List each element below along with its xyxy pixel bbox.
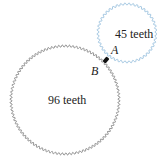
small-gear-label: 45 teeth [115, 27, 153, 41]
gear-diagram: 45 teeth A B 96 teeth [0, 0, 157, 163]
point-b-label: B [91, 64, 99, 78]
contact-point-marker [103, 56, 110, 63]
large-gear-label: 96 teeth [48, 93, 86, 107]
point-a-label: A [110, 43, 119, 57]
